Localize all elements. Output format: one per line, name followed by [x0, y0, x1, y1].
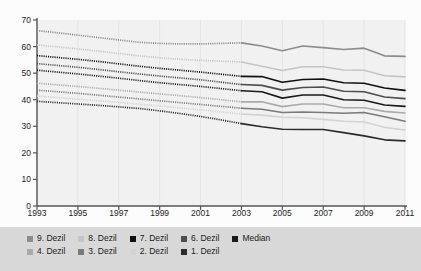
y-tick-label-60: 60 [5, 43, 31, 51]
x-tick-label-2003: 2003 [224, 209, 258, 218]
legend-item-4-dezil[interactable]: 4. Dezil [27, 245, 65, 258]
series-2-dotted [37, 45, 241, 62]
legend-swatch-icon [78, 249, 84, 255]
legend-row-1: 9. Dezil8. Dezil7. Dezil6. DezilMedian [0, 232, 421, 245]
legend-label: 1. Dezil [191, 247, 219, 256]
y-tick-label-40: 40 [5, 96, 31, 104]
legend-swatch-icon [181, 236, 187, 242]
y-tick-label-70: 70 [5, 16, 31, 24]
x-tick-label-2005: 2005 [265, 209, 299, 218]
legend-item-3-dezil[interactable]: 3. Dezil [78, 245, 116, 258]
legend-label: 4. Dezil [37, 247, 65, 256]
x-axis-tick-labels: 1993199519971999200120032005200720092011 [0, 209, 421, 223]
x-tick-label-1999: 1999 [143, 209, 177, 218]
x-tick-label-2011: 2011 [388, 209, 421, 218]
x-tick-label-1995: 1995 [61, 209, 95, 218]
legend-label: Median [242, 234, 270, 243]
legend-label: 7. Dezil [140, 234, 168, 243]
legend-label: 8. Dezil [88, 234, 116, 243]
legend-row-2: 4. Dezil3. Dezil2. Dezil1. Dezil [0, 245, 421, 258]
legend-swatch-icon [78, 236, 84, 242]
legend-item-1-dezil[interactable]: 1. Dezil [181, 245, 219, 258]
legend-swatch-icon [130, 249, 136, 255]
legend-swatch-icon [232, 236, 238, 242]
chart-screenshot: 010203040506070 199319951997199920012003… [0, 0, 421, 271]
series-1-dotted [37, 31, 241, 44]
legend-item-8-dezil[interactable]: 8. Dezil [78, 232, 116, 245]
legend-label: 9. Dezil [37, 234, 65, 243]
legend-swatch-icon [181, 249, 187, 255]
series-4-dotted [37, 64, 241, 85]
y-tick-label-20: 20 [5, 149, 31, 157]
legend-item-7-dezil[interactable]: 7. Dezil [130, 232, 168, 245]
chart-legend: 9. Dezil8. Dezil7. Dezil6. DezilMedian4.… [0, 227, 421, 271]
x-tick-label-1993: 1993 [20, 209, 54, 218]
x-tick-label-1997: 1997 [102, 209, 136, 218]
legend-item-9-dezil[interactable]: 9. Dezil [27, 232, 65, 245]
y-tick-label-10: 10 [5, 175, 31, 183]
legend-item-2-dezil[interactable]: 2. Dezil [130, 245, 168, 258]
x-tick-label-2007: 2007 [306, 209, 340, 218]
legend-swatch-icon [130, 236, 136, 242]
y-tick-label-50: 50 [5, 69, 31, 77]
chart-canvas: 010203040506070 199319951997199920012003… [0, 0, 421, 225]
axes [33, 18, 407, 210]
legend-label: 2. Dezil [140, 247, 168, 256]
legend-item-6-dezil[interactable]: 6. Dezil [181, 232, 219, 245]
legend-swatch-icon [27, 236, 33, 242]
y-tick-label-30: 30 [5, 122, 31, 130]
plot-svg [0, 0, 421, 225]
legend-label: 6. Dezil [191, 234, 219, 243]
data-series-group [37, 31, 405, 141]
y-axis-tick-labels: 010203040506070 [2, 0, 31, 225]
legend-item-median[interactable]: Median [232, 232, 270, 245]
legend-swatch-icon [27, 249, 33, 255]
x-tick-label-2001: 2001 [184, 209, 218, 218]
legend-label: 3. Dezil [88, 247, 116, 256]
x-tick-label-2009: 2009 [347, 209, 381, 218]
